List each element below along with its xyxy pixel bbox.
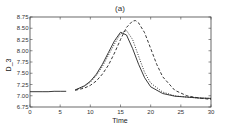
line-chart: (a) 6.757.007.257.507.758.008.258.508.75… <box>0 0 226 125</box>
y-tick-label: 7.00 <box>17 93 29 99</box>
x-tick-label: 5 <box>58 109 62 115</box>
x-axis-label: Time <box>112 117 127 124</box>
chart-svg: (a) 6.757.007.257.507.758.008.258.508.75… <box>0 0 226 125</box>
y-axis-label: D_3 <box>5 58 13 71</box>
y-tick-label: 8.00 <box>17 48 29 54</box>
x-tick-label: 20 <box>147 109 154 115</box>
series-dotted-line <box>75 31 211 99</box>
x-tick-label: 30 <box>208 109 215 115</box>
y-tick-label: 7.50 <box>17 70 29 76</box>
y-tick-label: 7.75 <box>17 59 29 65</box>
y-tick-label: 8.25 <box>17 37 29 43</box>
series-lines <box>30 21 211 100</box>
x-tick-label: 25 <box>177 109 184 115</box>
x-axis: 051015202530 <box>28 17 215 115</box>
y-tick-label: 7.25 <box>17 82 29 88</box>
y-tick-label: 6.75 <box>17 104 29 110</box>
y-axis: 6.757.007.257.507.758.008.258.508.75 <box>17 14 211 110</box>
series-solid-line <box>75 32 211 98</box>
y-tick-label: 8.50 <box>17 25 29 31</box>
x-tick-label: 0 <box>28 109 32 115</box>
x-tick-label: 15 <box>117 109 124 115</box>
chart-title: (a) <box>115 4 125 13</box>
x-tick-label: 10 <box>87 109 94 115</box>
y-tick-label: 8.75 <box>17 14 29 20</box>
series-dashed-line <box>75 21 211 100</box>
plot-frame <box>30 17 211 107</box>
